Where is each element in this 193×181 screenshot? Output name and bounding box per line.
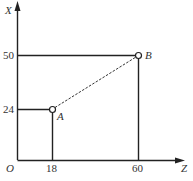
dashed-line-a-b (55, 57, 136, 108)
point-a-marker (50, 107, 56, 113)
x-tick-18: 18 (46, 162, 58, 174)
diagram-canvas: X Z O 50 24 18 60 A B (0, 0, 193, 181)
y-tick-24: 24 (3, 103, 15, 115)
point-b-label: B (145, 49, 152, 61)
point-a-label: A (56, 110, 64, 122)
origin-label: O (6, 162, 14, 174)
x-tick-60: 60 (132, 162, 144, 174)
y-axis-label: X (4, 4, 13, 16)
y-tick-50: 50 (3, 49, 15, 61)
x-axis-label: Z (181, 162, 188, 174)
coordinate-diagram: X Z O 50 24 18 60 A B (0, 0, 193, 181)
point-b-marker (136, 53, 142, 59)
y-axis-arrow-icon (15, 1, 21, 11)
